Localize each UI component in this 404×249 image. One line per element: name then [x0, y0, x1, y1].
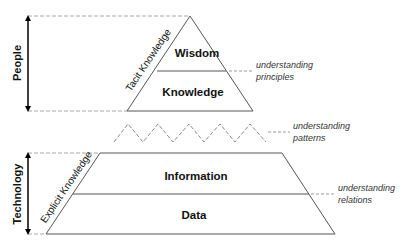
patterns-zigzag	[114, 124, 266, 142]
technology-label: Technology	[11, 163, 23, 225]
principles-annotation-line2: principles	[255, 72, 295, 82]
explicit-knowledge-label: Explicit Knowledge	[38, 149, 94, 225]
relations-annotation-line1: understanding	[338, 183, 395, 193]
patterns-annotation-line2: patterns	[292, 133, 326, 143]
people-label: People	[11, 45, 23, 81]
patterns-annotation-line1: understanding	[293, 121, 350, 131]
lower-pyramid	[46, 153, 335, 234]
level-information: Information	[164, 170, 227, 182]
level-knowledge: Knowledge	[162, 86, 223, 98]
relations-annotation-line2: relations	[338, 195, 373, 205]
level-wisdom: Wisdom	[175, 47, 220, 59]
dikw-diagram: People Technology Tacit Knowledge Explic…	[0, 0, 404, 249]
principles-annotation-line1: understanding	[256, 60, 313, 70]
level-data: Data	[182, 209, 208, 221]
tacit-knowledge-label: Tacit Knowledge	[123, 26, 173, 93]
